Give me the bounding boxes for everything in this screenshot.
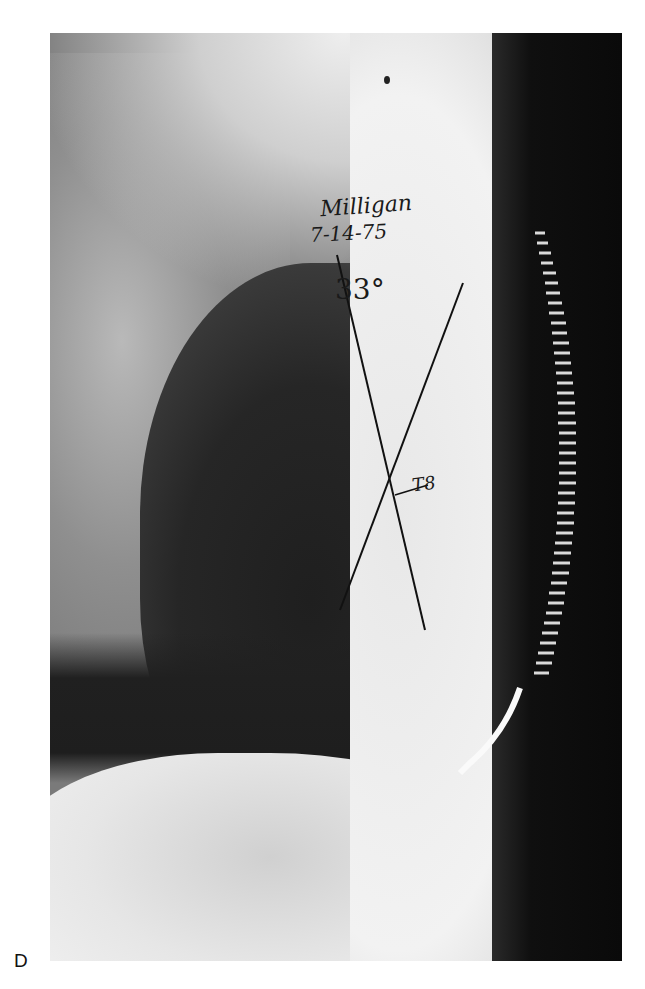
- cobb-angle-annotation: 33°: [335, 273, 385, 306]
- brace-plate: [460, 688, 520, 773]
- vertebral-level-annotation: T8: [411, 471, 437, 495]
- cobb-line-upper: [337, 255, 425, 630]
- panel-label: D: [14, 950, 28, 972]
- film-mark: [384, 76, 390, 84]
- radiograph-image: Milligan 7-14-75 33° T8: [50, 33, 622, 961]
- date-annotation: 7-14-75: [309, 219, 387, 247]
- brace-teeth: [534, 233, 576, 673]
- cobb-line-lower: [340, 283, 463, 610]
- overlay-graphics: [50, 33, 622, 961]
